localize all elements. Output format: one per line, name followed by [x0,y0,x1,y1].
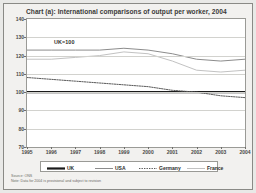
y-axis: 708090100110120130140 [6,18,24,148]
index-note: UK=100 [54,39,75,45]
y-axis-label: 120 [16,53,24,59]
x-axis-label: 2003 [215,149,226,155]
revision-note: Note: Data for 2004 is provisional and s… [11,179,191,184]
legend-label: UK [67,165,74,171]
y-axis-label: 110 [16,71,24,77]
chart-legend: UKUSAGermanyFrance [40,161,218,172]
x-axis-tick [124,147,125,149]
x-axis-label: 1996 [46,149,57,155]
x-axis-tick [221,147,222,149]
legend-label: France [207,165,223,171]
legend-label: USA [115,165,126,171]
x-axis-tick [245,147,246,149]
x-axis-label: 2004 [239,149,250,155]
legend-swatch-uk-icon [47,165,65,172]
gridline [27,129,245,130]
x-axis-label: 2001 [167,149,178,155]
x-axis-tick [51,147,52,149]
x-axis: 1995199619971998199920002001200220032004 [26,149,246,159]
x-axis-label: 2000 [143,149,154,155]
legend-swatch-usa-icon [95,165,113,172]
legend-label: Germany [159,165,181,171]
x-axis-tick [75,147,76,149]
series-line-germany [27,78,245,98]
x-axis-tick [100,147,101,149]
y-axis-label: 130 [16,34,24,40]
legend-swatch-germany-icon [139,165,157,172]
chart-title: Chart (a): International comparisons of … [26,8,250,15]
x-axis-tick [197,147,198,149]
gridline [27,74,245,75]
plot-area: UK=100 [26,18,246,148]
gridline [27,37,245,38]
chart-figure: Chart (a): International comparisons of … [3,3,253,190]
x-axis-label: 1999 [118,149,129,155]
gridline [27,92,245,93]
x-axis-label: 1998 [94,149,105,155]
x-axis-label: 1995 [21,149,32,155]
footnotes: Source: ONS Note: Data for 2004 is provi… [11,174,191,183]
gridline [27,110,245,111]
x-axis-tick [172,147,173,149]
y-axis-label: 100 [16,89,24,95]
x-axis-tick [148,147,149,149]
x-axis-label: 1997 [70,149,81,155]
y-axis-label: 140 [16,16,24,22]
x-axis-label: 2002 [191,149,202,155]
legend-swatch-france-icon [187,165,205,172]
gridline [27,56,245,57]
x-axis-tick [27,147,28,149]
